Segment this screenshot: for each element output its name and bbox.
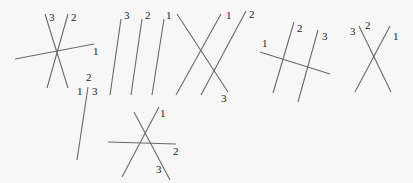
line-1	[152, 19, 164, 95]
label-2: 2	[365, 19, 371, 31]
line-1	[176, 14, 221, 95]
figure-d: 3 1 2	[176, 8, 255, 104]
label-1: 1	[393, 30, 399, 42]
label-1: 1	[160, 107, 166, 119]
label-3: 3	[322, 30, 328, 42]
label-1: 1	[226, 9, 232, 21]
line-3	[110, 19, 121, 95]
label-3: 3	[350, 25, 356, 37]
figure-g: 3 1 2	[108, 107, 179, 180]
line-2	[359, 26, 391, 92]
lines-diagram: 3 2 1 2 1 3 3 2 1 3 1 2 1 2 3 2	[0, 0, 413, 183]
line-single	[77, 87, 88, 160]
figure-e: 1 2 3	[260, 22, 330, 102]
label-3: 3	[124, 9, 130, 21]
label-3: 3	[156, 163, 162, 175]
label-2: 2	[173, 145, 179, 157]
line-3	[134, 112, 170, 180]
label-1: 1	[93, 45, 99, 57]
label-2: 2	[86, 71, 92, 83]
line-1	[355, 26, 390, 92]
label-3: 3	[49, 11, 55, 23]
figure-b: 2 1 3	[77, 71, 98, 160]
line-2	[201, 11, 246, 95]
figure-f: 2 1 3	[350, 19, 399, 92]
line-1	[260, 52, 330, 74]
line-2	[108, 142, 176, 144]
label-1: 1	[262, 37, 268, 49]
label-2: 2	[145, 9, 151, 21]
label-1: 1	[77, 85, 83, 97]
label-1: 1	[166, 9, 172, 21]
line-3	[298, 30, 318, 102]
label-3: 3	[221, 92, 227, 104]
label-2: 2	[249, 8, 255, 20]
label-2: 2	[71, 11, 77, 23]
figure-c: 3 2 1	[110, 9, 172, 95]
line-2	[131, 19, 142, 95]
label-2: 2	[297, 22, 303, 34]
line-1	[122, 107, 159, 177]
label-3: 3	[92, 85, 98, 97]
